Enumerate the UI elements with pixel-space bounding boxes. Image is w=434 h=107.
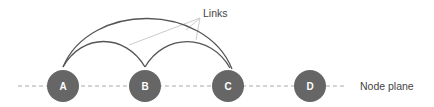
node-link-diagram: A B C D Links Node plane (0, 0, 434, 107)
node-a: A (47, 70, 79, 102)
links-label: Links (203, 7, 228, 19)
node-b-label: B (141, 81, 148, 92)
node-c-label: C (224, 81, 231, 92)
node-d: D (294, 70, 326, 102)
node-a-label: A (59, 81, 66, 92)
node-d-label: D (306, 81, 313, 92)
links-pointer-line-1 (129, 18, 200, 45)
node-b: B (129, 70, 161, 102)
link-arc-a-b (63, 42, 145, 68)
node-plane-label: Node plane (360, 80, 414, 92)
node-c: C (212, 70, 244, 102)
